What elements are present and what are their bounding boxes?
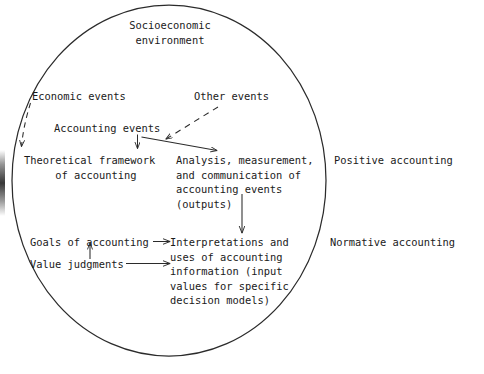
label-goals-of-accounting: Goals of accounting bbox=[30, 235, 149, 250]
page-edge-artifact bbox=[0, 150, 5, 216]
label-value-judgments: Value judgments bbox=[30, 257, 124, 272]
label-normative-accounting: Normative accounting bbox=[330, 235, 455, 250]
label-positive-accounting: Positive accounting bbox=[334, 153, 453, 168]
diagram-canvas: Socioeconomic environment Economic event… bbox=[0, 0, 484, 374]
label-accounting-events: Accounting events bbox=[54, 121, 160, 136]
label-theoretical-framework: Theoretical framework of accounting bbox=[24, 153, 155, 182]
label-interpretations-and-uses: Interpretations and uses of accounting i… bbox=[170, 235, 289, 308]
connector-accounting-events-to-analysis bbox=[142, 137, 218, 151]
label-other-events: Other events bbox=[194, 89, 269, 104]
label-economic-events: Economic events bbox=[32, 89, 126, 104]
connector-other-events-to-accounting-events bbox=[166, 107, 218, 139]
label-analysis-measurement-communication: Analysis, measurement, and communication… bbox=[176, 153, 314, 211]
label-socioeconomic-environment: Socioeconomic environment bbox=[108, 18, 232, 47]
